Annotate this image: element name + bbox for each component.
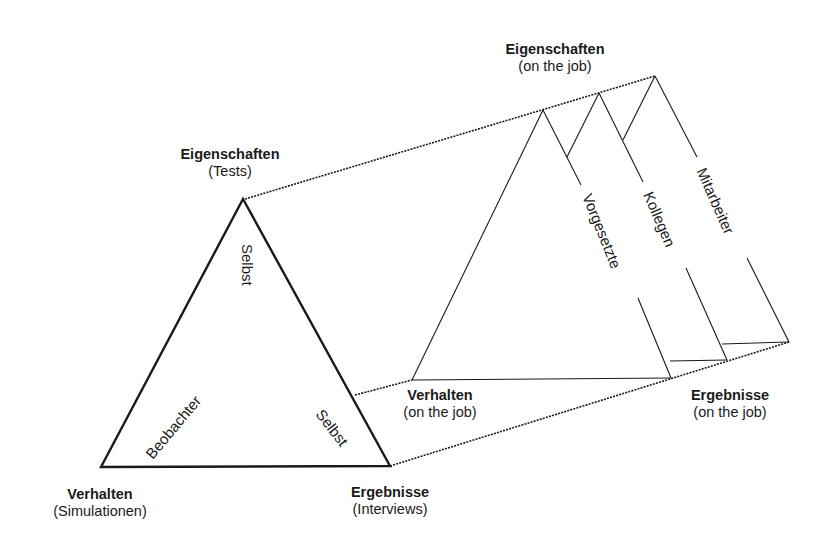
label-eigenschaften-on-the-job: Eigenschaften (on the job) bbox=[500, 41, 610, 75]
diagram-lines bbox=[0, 0, 827, 554]
label-subtitle: (on the job) bbox=[390, 404, 490, 421]
left-triangle bbox=[101, 199, 390, 467]
label-title: Eigenschaften bbox=[175, 146, 285, 163]
label-verhalten-simulationen: Verhalten (Simulationen) bbox=[40, 486, 160, 520]
label-title: Ergebnisse bbox=[335, 484, 445, 501]
label-title: Ergebnisse bbox=[680, 387, 780, 404]
edge-label-selbst-vertical: Selbst bbox=[239, 244, 256, 286]
label-title: Verhalten bbox=[390, 387, 490, 404]
label-subtitle: (Simulationen) bbox=[40, 503, 160, 520]
label-subtitle: (on the job) bbox=[500, 58, 610, 75]
label-title: Verhalten bbox=[40, 486, 160, 503]
label-ergebnisse-interviews: Ergebnisse (Interviews) bbox=[335, 484, 445, 518]
label-verhalten-on-the-job: Verhalten (on the job) bbox=[390, 387, 490, 421]
label-eigenschaften-tests: Eigenschaften (Tests) bbox=[175, 146, 285, 180]
label-ergebnisse-on-the-job: Ergebnisse (on the job) bbox=[680, 387, 780, 421]
label-subtitle: (Interviews) bbox=[335, 501, 445, 518]
label-title: Eigenschaften bbox=[500, 41, 610, 58]
label-subtitle: (on the job) bbox=[680, 404, 780, 421]
label-subtitle: (Tests) bbox=[175, 163, 285, 180]
